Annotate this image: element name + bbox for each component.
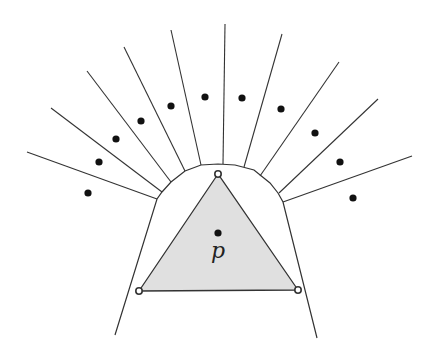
triangle-vertex (136, 288, 142, 294)
voronoi-edge (27, 152, 157, 199)
point-p (214, 229, 221, 236)
site-point (201, 93, 208, 100)
voronoi-edge (260, 62, 339, 176)
voronoi-edge (51, 108, 162, 192)
voronoi-edge (279, 99, 378, 193)
site-point (167, 102, 174, 109)
triangle-vertex (215, 171, 221, 177)
voronoi-edge (171, 30, 201, 165)
triangle-vertex (295, 287, 301, 293)
site-point (112, 135, 119, 142)
site-point (238, 94, 245, 101)
voronoi-diagram (0, 0, 437, 357)
site-point (311, 129, 318, 136)
point-p-label: p (211, 238, 225, 263)
site-point (84, 189, 91, 196)
site-point (349, 194, 356, 201)
diagram-canvas: p (0, 0, 437, 357)
voronoi-edge (124, 47, 185, 171)
site-point (137, 117, 144, 124)
voronoi-edge (244, 34, 282, 167)
voronoi-edge (283, 156, 412, 202)
site-point (95, 158, 102, 165)
voronoi-edge (223, 24, 225, 164)
site-point (336, 158, 343, 165)
site-point (277, 105, 284, 112)
